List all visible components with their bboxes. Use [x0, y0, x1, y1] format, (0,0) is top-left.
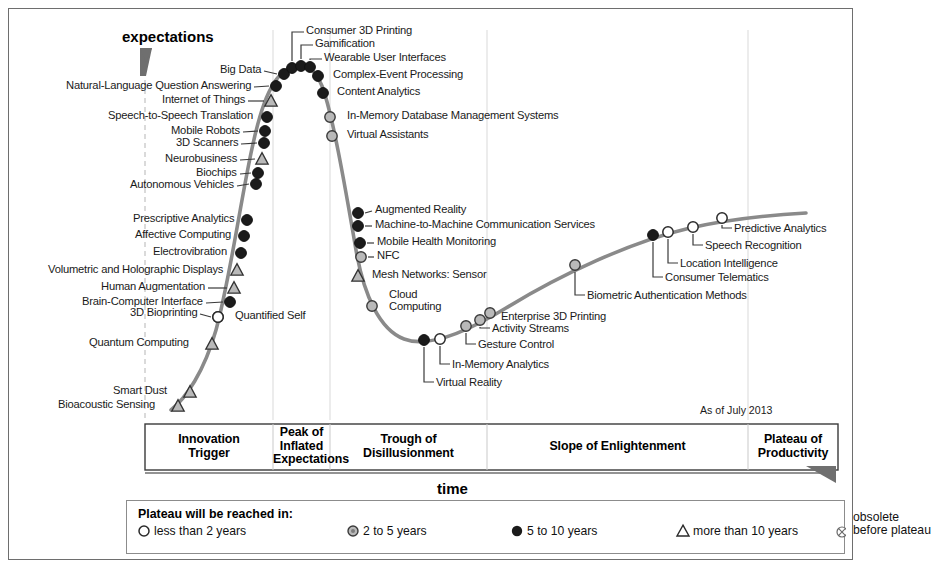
data-point-label: Augmented Reality	[375, 204, 466, 216]
data-point-label: Gesture Control	[478, 339, 554, 351]
data-point-label: NFC	[377, 250, 399, 262]
data-point-label: Human Augmentation	[101, 281, 205, 293]
data-point-label: CloudComputing	[389, 289, 441, 312]
phase-label-1: InnovationTrigger	[145, 433, 273, 460]
phase-line: Plateau of	[764, 432, 822, 446]
data-point-label: Mobile Health Monitoring	[377, 236, 496, 248]
phase-line: Trough of	[380, 432, 436, 446]
data-point-label: Internet of Things	[162, 94, 245, 106]
data-point-label: Wearable User Interfaces	[324, 52, 446, 64]
phase-label-2: Peak ofInflatedExpectations	[273, 426, 330, 466]
data-point-label: Smart Dust	[113, 385, 167, 397]
data-point-label: Enterprise 3D Printing	[501, 311, 606, 323]
data-point-label: Autonomous Vehicles	[130, 179, 234, 191]
data-point-label: In-Memory Analytics	[452, 359, 549, 371]
data-point-label: Consumer 3D Printing	[306, 25, 412, 37]
data-point-label: 3D Scanners	[176, 137, 238, 149]
y-axis-title: expectations	[122, 28, 214, 45]
data-point-label: Virtual Assistants	[347, 129, 428, 141]
data-point-label: Brain-Computer Interface	[82, 296, 203, 308]
data-point-label: Speech Recognition	[705, 240, 802, 252]
phase-line: Slope of Enlightenment	[549, 439, 685, 453]
data-point-label: Mesh Networks: Sensor	[372, 269, 487, 281]
legend-box: Plateau will be reached in: less than 2 …	[126, 500, 845, 554]
data-point-label: Activity Streams	[492, 323, 569, 335]
data-point-label: Biochips	[196, 167, 237, 179]
data-point-label: Predictive Analytics	[734, 223, 826, 235]
phase-label-5: Plateau ofProductivity	[748, 433, 838, 460]
data-point-label: Affective Computing	[135, 229, 231, 241]
phase-line: Productivity	[758, 446, 828, 460]
phase-line: Peak of	[280, 425, 323, 439]
data-point-label: Consumer Telematics	[665, 272, 769, 284]
data-point-label: Gamification	[315, 38, 375, 50]
data-point-label: 3D Bioprinting	[130, 307, 197, 319]
phase-line: Innovation	[178, 432, 240, 446]
data-point-label: Biometric Authentication Methods	[587, 290, 747, 302]
phase-label-4: Slope of Enlightenment	[487, 440, 748, 453]
phase-line: Disillusionment	[363, 446, 454, 460]
data-point-label: Quantum Computing	[89, 337, 189, 349]
data-point-label: Prescriptive Analytics	[133, 213, 234, 225]
data-point-label: In-Memory Database Management Systems	[347, 110, 558, 122]
phase-line: Inflated	[280, 439, 323, 453]
data-point-label: Quantified Self	[235, 310, 305, 322]
legend-obsolete: obsoletebefore plateau	[853, 511, 931, 537]
data-point-label: Electrovibration	[153, 246, 227, 258]
data-point-label: Speech-to-Speech Translation	[108, 110, 253, 122]
data-point-label: Big Data	[220, 64, 261, 76]
data-point-label: Machine-to-Machine Communication Service…	[375, 219, 595, 231]
data-point-label: Neurobusiness	[165, 153, 237, 165]
data-point-label: Virtual Reality	[436, 377, 502, 389]
as-of-date: As of July 2013	[700, 404, 772, 416]
data-point-label: Complex-Event Processing	[333, 69, 463, 81]
data-point-label: Natural-Language Question Answering	[66, 80, 251, 92]
x-axis-title: time	[437, 480, 468, 497]
phase-label-3: Trough ofDisillusionment	[330, 433, 487, 460]
phase-line: Trigger	[188, 446, 229, 460]
legend-obsolete-line2: before plateau	[853, 524, 931, 537]
data-point-label: Volumetric and Holographic Displays	[48, 264, 223, 276]
data-point-label: Location Intelligence	[680, 258, 778, 270]
data-point-label: Mobile Robots	[171, 125, 240, 137]
data-point-label: Content Analytics	[337, 86, 420, 98]
data-point-label: Bioacoustic Sensing	[58, 399, 155, 411]
